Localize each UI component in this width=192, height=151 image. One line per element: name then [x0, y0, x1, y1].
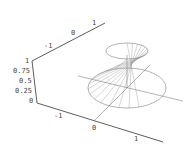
back-axis — [32, 23, 105, 61]
ruling-line — [119, 44, 138, 108]
y-axis-line — [95, 65, 150, 120]
ruling-line — [129, 43, 132, 108]
ruling-line — [89, 55, 145, 84]
front-axis-tick: 0 — [92, 124, 96, 132]
plot-canvas: -1 0 1 1 0.75 0.5 0.25 0 -1 0 1 — [0, 0, 192, 151]
z-axis-tick: 1 — [25, 57, 29, 65]
z-axis-tick: 0.25 — [15, 87, 32, 95]
back-axis-tick: 1 — [92, 19, 96, 27]
z-axis-tick: 0.5 — [19, 77, 32, 85]
back-axis-tick: -1 — [44, 42, 52, 50]
ruling-line — [109, 45, 142, 106]
ruling-line — [106, 59, 133, 71]
front-axis-tick: -1 — [54, 112, 62, 120]
front-axis — [37, 103, 163, 142]
ruling-line — [92, 57, 142, 79]
ruling-line — [127, 43, 139, 107]
z-axis-tick: 0 — [29, 97, 33, 105]
z-axis-tick: 0.75 — [13, 67, 30, 75]
surface-rulings — [88, 43, 148, 108]
ruling-line — [94, 49, 147, 99]
ruling-line — [101, 47, 145, 103]
back-axis-tick: 0 — [71, 29, 75, 37]
front-axis-tick: 1 — [134, 135, 138, 143]
